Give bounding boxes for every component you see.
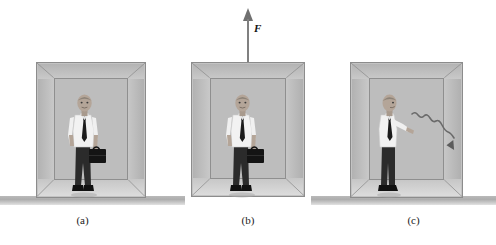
caption-c: (c)	[331, 214, 496, 226]
physics-figure: (a) F	[0, 0, 496, 245]
caption-b: (b)	[165, 214, 331, 226]
force-label-f: F	[254, 22, 261, 34]
caption-a: (a)	[0, 214, 165, 226]
panel-c: (c)	[331, 0, 496, 245]
man-b	[221, 93, 265, 198]
panel-a: (a)	[0, 0, 165, 245]
throw-trail-c	[411, 108, 459, 156]
ground-line-b-right	[311, 196, 331, 205]
ground-line-b-left	[165, 196, 185, 205]
panel-b: F	[165, 0, 331, 245]
force-arrow-f	[241, 8, 255, 68]
man-a	[63, 93, 107, 198]
